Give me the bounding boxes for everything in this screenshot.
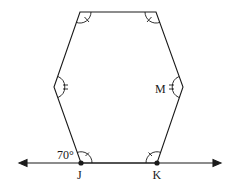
label-m: M <box>155 82 166 96</box>
right-arrow-icon <box>213 160 221 167</box>
point-j <box>78 160 83 165</box>
hexagon-diagram: 70° J K M <box>0 0 230 187</box>
angle-arc-left <box>58 77 65 98</box>
angle-arc-right <box>172 77 179 98</box>
point-k <box>154 160 159 165</box>
angle-label-70: 70° <box>57 148 74 162</box>
left-arrow-icon <box>19 160 27 167</box>
label-k: K <box>153 168 162 182</box>
label-j: J <box>77 168 82 182</box>
